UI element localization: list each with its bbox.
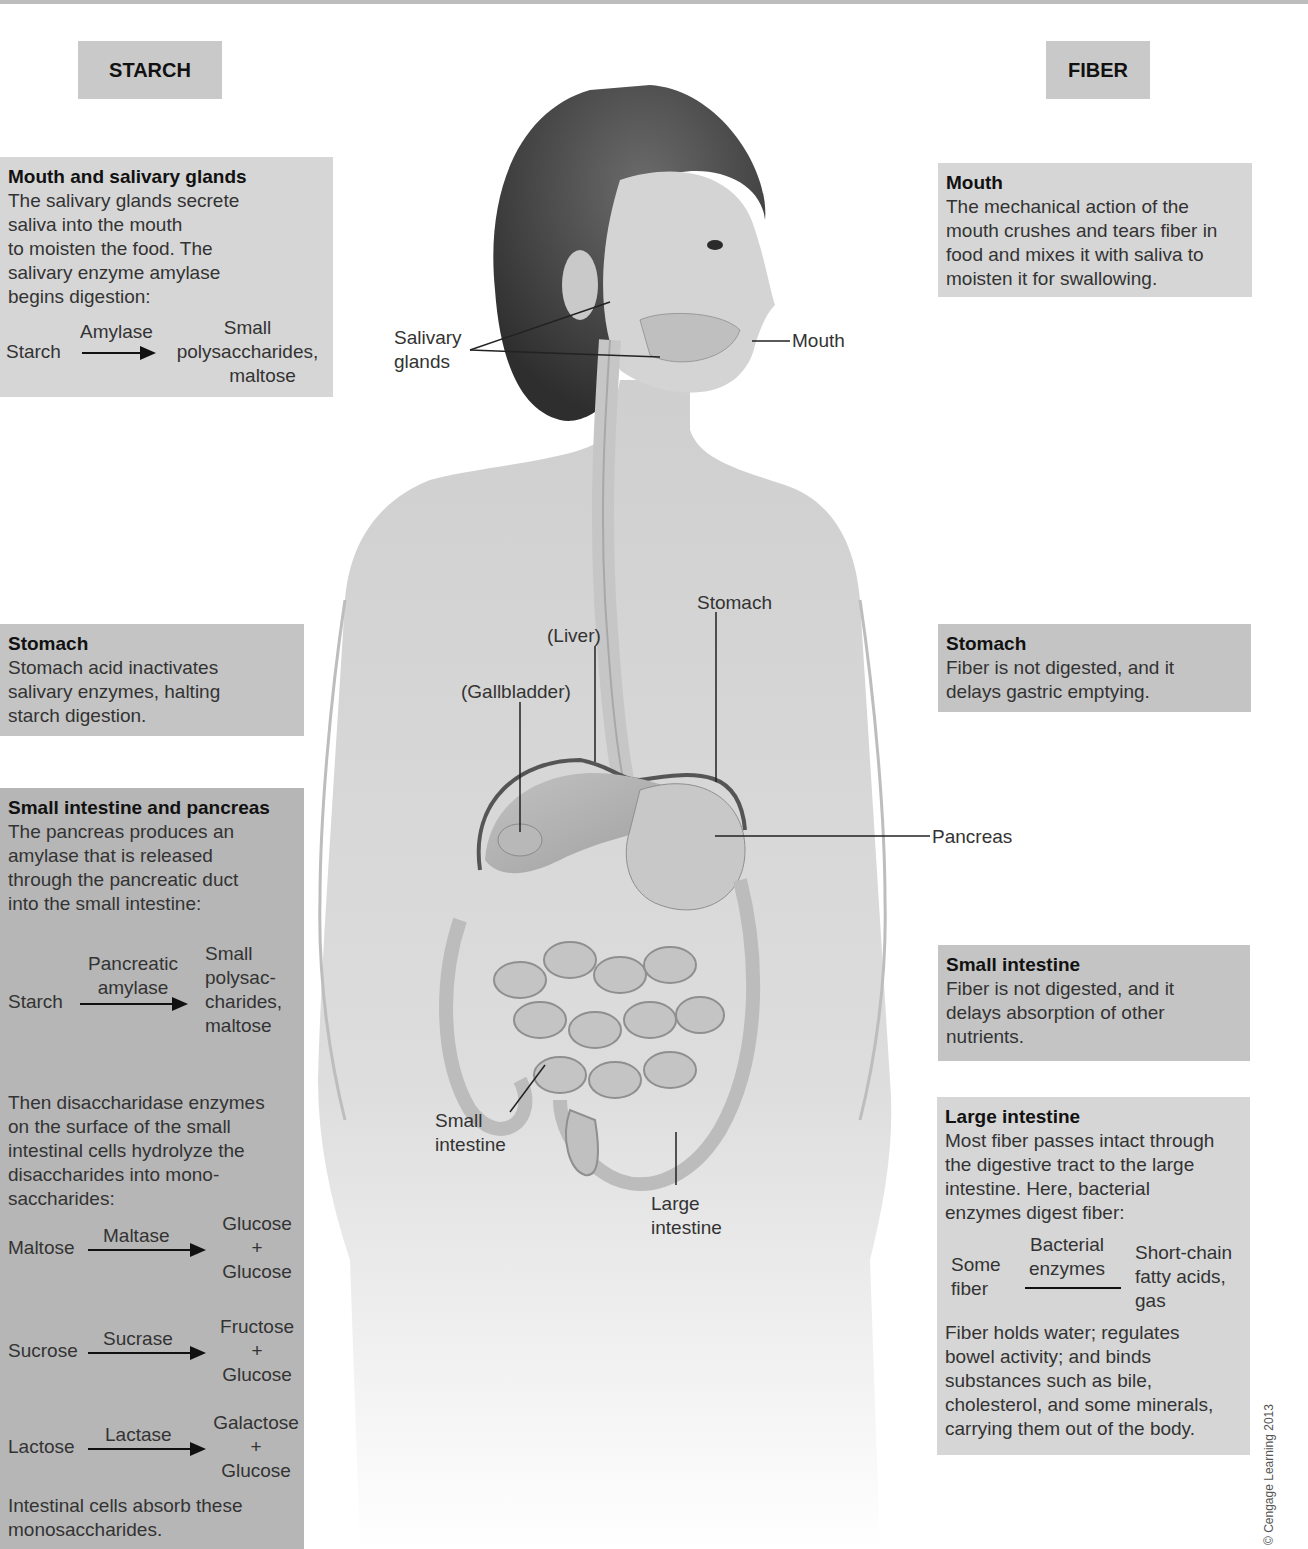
label-pancreas: Pancreas	[932, 825, 1012, 849]
starch-stomach-text-1: Stomach acid inactivates	[8, 656, 296, 680]
arrow-icon	[80, 1003, 186, 1005]
label-small-intestine: Small intestine	[435, 1109, 506, 1157]
label-mouth: Mouth	[792, 329, 845, 353]
starch-stomach-text-3: starch digestion.	[8, 704, 296, 728]
arrow-icon	[1025, 1287, 1121, 1289]
reaction-enzyme: Lactase	[105, 1423, 172, 1447]
reaction-substrate: Some fiber	[951, 1253, 1001, 1301]
arrow-icon	[88, 1352, 204, 1354]
reaction-enzyme: Amylase	[80, 320, 153, 344]
reaction-enzyme: Maltase	[103, 1224, 170, 1248]
pancreatic-amylase-reaction: Starch Pancreatic amylase Small polysac-…	[0, 940, 304, 1040]
maltase-reaction: Maltose Maltase Glucose + Glucose	[0, 1210, 304, 1286]
starch-header: STARCH	[78, 41, 222, 99]
starch-mouth-text-1: The salivary glands secrete	[8, 189, 325, 213]
starch-si-text-1: The pancreas produces an	[8, 820, 296, 844]
starch-mouth-title: Mouth and salivary glands	[8, 165, 325, 189]
label-liver: (Liver)	[547, 624, 601, 648]
copyright-credit: © Cengage Learning 2013	[1262, 1404, 1276, 1545]
arrow-icon	[88, 1448, 204, 1450]
fiber-stomach-panel: Stomach Fiber is not digested, and it de…	[938, 624, 1251, 712]
reaction-substrate: Lactose	[8, 1435, 75, 1459]
starch-mouth-text-5: begins digestion:	[8, 285, 325, 309]
label-large-intestine: Large intestine	[651, 1192, 722, 1240]
starch-mouth-text-4: salivary enzyme amylase	[8, 261, 325, 285]
reaction-product: Glucose + Glucose	[212, 1212, 302, 1284]
disaccharidase-text: Then disaccharidase enzymes on the surfa…	[0, 1083, 304, 1219]
reaction-product: Fructose + Glucose	[212, 1315, 302, 1387]
fiber-mouth-title: Mouth	[946, 171, 1244, 195]
starch-si-text-2: amylase that is released	[8, 844, 296, 868]
fiber-small-intestine-panel: Small intestine Fiber is not digested, a…	[938, 945, 1250, 1061]
label-gallbladder: (Gallbladder)	[461, 680, 571, 704]
starch-stomach-text-2: salivary enzymes, halting	[8, 680, 296, 704]
fiber-large-intestine-panel: Large intestine Most fiber passes intact…	[937, 1097, 1250, 1455]
amylase-reaction: Starch Amylase Small polysaccharides, ma…	[0, 312, 333, 392]
fiber-stomach-title: Stomach	[946, 632, 1243, 656]
reaction-enzyme: Bacterial enzymes	[1017, 1233, 1117, 1281]
reaction-enzyme: Pancreatic amylase	[78, 952, 188, 1000]
reaction-substrate: Sucrose	[8, 1339, 78, 1363]
lactase-reaction: Lactose Lactase Galactose + Glucose	[0, 1409, 304, 1485]
fiber-si-title: Small intestine	[946, 953, 1242, 977]
starch-mouth-text-3: to moisten the food. The	[8, 237, 325, 261]
fiber-li-title: Large intestine	[945, 1105, 1242, 1129]
starch-si-text-4: into the small intestine:	[8, 892, 296, 916]
reaction-product: Small polysaccharides, maltose	[165, 316, 330, 388]
starch-stomach-panel: Stomach Stomach acid inactivates salivar…	[0, 624, 304, 736]
fiber-header: FIBER	[1046, 41, 1150, 99]
reaction-substrate: Maltose	[8, 1236, 75, 1260]
reaction-product: Small polysac- charides, maltose	[205, 942, 282, 1038]
absorption-text: Intestinal cells absorb these monosaccha…	[0, 1494, 304, 1542]
starch-si-text-3: through the pancreatic duct	[8, 868, 296, 892]
reaction-product: Galactose + Glucose	[206, 1411, 306, 1483]
reaction-substrate: Starch	[6, 340, 61, 364]
starch-mouth-text-2: saliva into the mouth	[8, 213, 325, 237]
fiber-mouth-panel: Mouth The mechanical action of the mouth…	[938, 163, 1252, 297]
starch-si-title: Small intestine and pancreas	[8, 796, 296, 820]
reaction-substrate: Starch	[8, 990, 63, 1014]
starch-stomach-title: Stomach	[8, 632, 296, 656]
reaction-enzyme: Sucrase	[103, 1327, 173, 1351]
arrow-icon	[88, 1249, 204, 1251]
bacterial-enzymes-reaction: Some fiber Bacterial enzymes Short-chain…	[945, 1225, 1242, 1321]
label-stomach: Stomach	[697, 591, 772, 615]
sucrase-reaction: Sucrose Sucrase Fructose + Glucose	[0, 1313, 304, 1389]
reaction-product: Short-chain fatty acids, gas	[1135, 1241, 1232, 1313]
label-salivary-glands: Salivary glands	[394, 326, 462, 374]
arrow-icon	[82, 352, 154, 354]
